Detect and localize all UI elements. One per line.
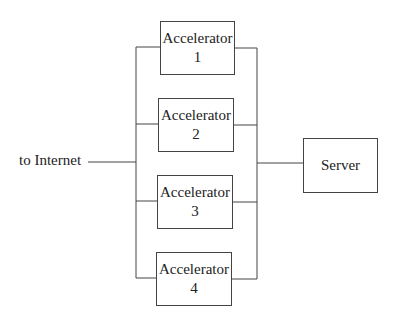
accelerator-name: Accelerator bbox=[159, 260, 229, 279]
accelerator-name: Accelerator bbox=[163, 29, 233, 48]
accelerator-box-2: Accelerator 2 bbox=[158, 98, 234, 152]
accelerator-name: Accelerator bbox=[161, 106, 231, 125]
server-label: Server bbox=[321, 156, 360, 175]
accelerator-number: 3 bbox=[191, 202, 199, 221]
accelerator-number: 1 bbox=[194, 48, 202, 67]
accelerator-box-4: Accelerator 4 bbox=[156, 252, 232, 306]
internet-label: to Internet bbox=[19, 152, 81, 169]
accelerator-name: Accelerator bbox=[160, 183, 230, 202]
accelerator-box-3: Accelerator 3 bbox=[157, 175, 233, 229]
server-box: Server bbox=[303, 138, 378, 193]
accelerator-number: 4 bbox=[190, 279, 198, 298]
accelerator-box-1: Accelerator 1 bbox=[160, 21, 235, 75]
accelerator-number: 2 bbox=[192, 125, 200, 144]
